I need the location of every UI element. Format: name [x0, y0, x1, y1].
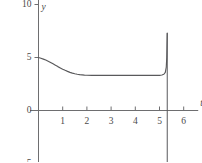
y-axis-label: y — [42, 3, 46, 13]
x-axis-ticks — [63, 107, 184, 111]
y-tick-label: −5 — [5, 159, 32, 163]
axis-lines — [30, 0, 198, 162]
y-tick-label: 0 — [5, 106, 32, 116]
y-tick-label: 10 — [5, 0, 32, 9]
x-tick-label: 4 — [123, 117, 147, 127]
x-tick-label: 1 — [51, 117, 75, 127]
solution-curve-line — [39, 33, 168, 75]
y-axis-ticks — [35, 5, 39, 163]
x-tick-label: 2 — [75, 117, 99, 127]
x-tick-label: 6 — [172, 117, 196, 127]
y-tick-label: 5 — [5, 53, 32, 63]
x-axis-label: t — [200, 99, 202, 109]
plot-area — [0, 0, 202, 162]
x-tick-label: 5 — [148, 117, 172, 127]
x-tick-label: 3 — [99, 117, 123, 127]
chart-figure: 1234561050−5 y t — [0, 0, 202, 162]
